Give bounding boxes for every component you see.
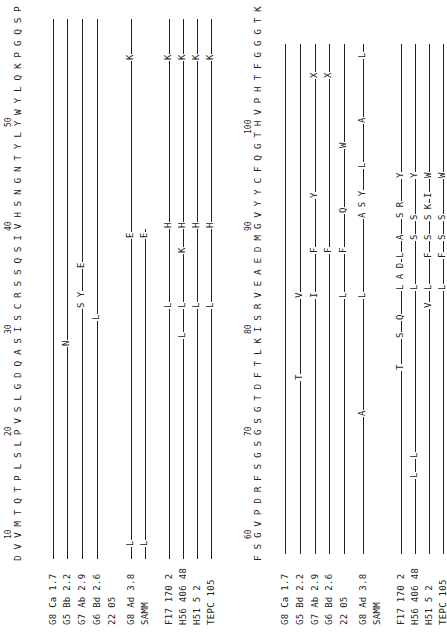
substitution: W	[423, 172, 433, 179]
identity-line	[197, 19, 198, 559]
substitution: Y	[309, 192, 319, 199]
substitution: H	[191, 222, 201, 229]
identity-line	[211, 19, 212, 559]
substitution: L	[139, 540, 149, 547]
substitution: K	[163, 54, 173, 61]
substitution: Q	[395, 314, 405, 321]
substitution: L	[163, 302, 173, 309]
substitution: S	[437, 214, 447, 221]
substitution: K	[191, 54, 201, 61]
substitution: K	[125, 54, 135, 61]
substitution: K	[177, 54, 187, 61]
alignment-row: SAMM L E	[140, 0, 150, 639]
substitution: F	[309, 247, 319, 254]
substitution: S	[409, 214, 419, 221]
substitution: X	[323, 72, 333, 79]
alignment-row: 22 05 L F Q W	[339, 0, 349, 639]
row-label: 22 05	[107, 596, 117, 625]
substitution: K	[205, 54, 215, 61]
row-label: SAMM	[140, 602, 150, 625]
substitution: L	[91, 314, 101, 321]
substitution: K	[177, 247, 187, 254]
substitution: A	[395, 234, 405, 241]
identity-line	[401, 44, 402, 554]
identity-line	[300, 44, 301, 554]
substitution: S	[409, 234, 419, 241]
identity-line	[443, 44, 444, 554]
substitution: L	[423, 284, 433, 291]
alignment-panel-residues-1-55: 10 20 30 40 50 D V V M T Q T P L S L P V…	[0, 0, 230, 639]
substitution: H	[177, 222, 187, 229]
alignment-row: G5 Bd 2.2 T V	[295, 0, 305, 639]
alignment-row: H56 406 48 L L L S S Y	[410, 0, 420, 639]
substitution: T	[395, 364, 405, 371]
substitution: I	[423, 192, 433, 199]
substitution: A S Y	[357, 190, 367, 219]
row-label: TEPC 105	[438, 579, 447, 625]
alignment-row: G5 Bb 2.2 N	[62, 0, 72, 639]
substitution: N	[61, 340, 71, 347]
row-label: H51 5 2	[424, 585, 434, 625]
alignment-row: F17 170 2 L H K	[164, 0, 174, 639]
alignment-row: TEPC 105 L H K	[206, 0, 216, 639]
row-label: H51 5 2	[192, 585, 202, 625]
substitution: Y	[409, 172, 419, 179]
identity-line	[183, 19, 184, 559]
alignment-row: G7 Ab 2.9 S Y E	[77, 0, 87, 639]
substitution: S K	[423, 203, 433, 221]
identity-line	[145, 229, 146, 559]
substitution: A	[357, 410, 367, 417]
alignment-row: H51 5 2 L H K	[192, 0, 202, 639]
row-label: F17 170 2	[164, 574, 174, 625]
substitution: L	[191, 302, 201, 309]
substitution: L	[409, 284, 419, 291]
substitution: Y	[395, 172, 405, 179]
identity-line	[97, 19, 98, 559]
substitution: Q	[338, 207, 348, 214]
row-label: G5 Bd 2.2	[295, 574, 305, 625]
row-label: G8 Ad 3.8	[358, 574, 368, 625]
alignment-row: H56 406 48 L L K H K	[178, 0, 188, 639]
substitution: S	[395, 332, 405, 339]
substitution: F	[338, 247, 348, 254]
alignment-row: G8 Ca 1.7	[48, 0, 58, 639]
substitution: I	[309, 292, 319, 299]
identity-line	[344, 44, 345, 554]
substitution: S Y	[76, 291, 86, 309]
row-label: H56 406 48	[178, 568, 188, 625]
substitution: L	[357, 162, 367, 169]
substitution: L	[409, 452, 419, 459]
identity-line	[53, 19, 54, 559]
substitution: L	[205, 302, 215, 309]
row-label: G7 Ab 2.9	[77, 574, 87, 625]
row-label: G8 Ca 1.7	[280, 574, 290, 625]
substitution: E	[76, 262, 86, 269]
identity-line	[131, 19, 132, 559]
alignment-row: 22 05	[107, 0, 117, 639]
alignment-row: SAMM	[372, 0, 382, 639]
substitution: L	[125, 540, 135, 547]
row-label: 22 05	[339, 596, 349, 625]
alignment-row: TEPC 105 L F S S W	[438, 0, 447, 639]
substitution: H	[205, 222, 215, 229]
substitution: L	[357, 52, 367, 59]
substitution: X	[309, 72, 319, 79]
identity-line	[329, 44, 330, 554]
reference-sequence: F S G V P D R F S G S G S G T D F T L K …	[252, 0, 263, 561]
row-label: G6 Bd 2.6	[92, 574, 102, 625]
row-label: G7 Ab 2.9	[310, 574, 320, 625]
substitution: E	[139, 232, 149, 239]
row-label: F17 170 2	[396, 574, 406, 625]
substitution: S R	[395, 201, 405, 219]
identity-line	[315, 44, 316, 554]
substitution: L	[395, 252, 405, 259]
alignment-row: H51 5 2 V L F S S K I W	[424, 0, 434, 639]
row-label: TEPC 105	[206, 579, 216, 625]
alignment-row: F17 170 2 T S Q L A D L A S R Y	[396, 0, 406, 639]
substitution: S	[437, 234, 447, 241]
substitution: W	[338, 142, 348, 149]
substitution: F	[423, 252, 433, 259]
row-label: SAMM	[372, 602, 382, 625]
substitution: H	[163, 222, 173, 229]
identity-line	[82, 19, 83, 559]
